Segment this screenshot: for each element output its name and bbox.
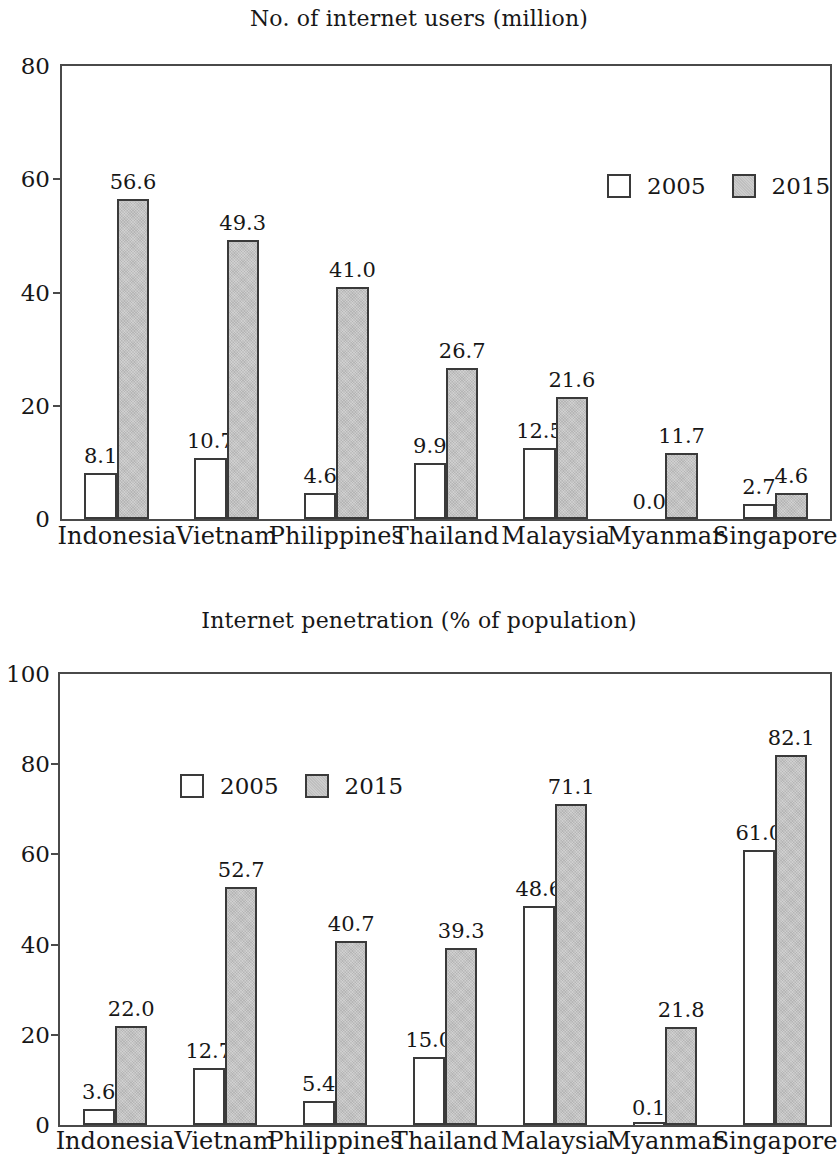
bar-vietnam-2015 xyxy=(225,887,257,1125)
x-axis-label-thailand: Thailand xyxy=(393,524,499,548)
bar-myanmar-2015 xyxy=(665,453,697,519)
bar-value-label: 52.7 xyxy=(218,860,265,881)
plot-frame: 3.622.012.752.75.440.715.039.348.671.10.… xyxy=(58,672,832,1127)
legend-swatch-2005-icon xyxy=(180,774,204,798)
y-axis: 020406080 xyxy=(0,0,60,580)
bar-singapore-2015 xyxy=(775,493,807,519)
bar-vietnam-2015 xyxy=(227,240,259,519)
chart-title: No. of internet users (million) xyxy=(0,6,838,31)
y-axis-tick-label: 20 xyxy=(21,394,50,417)
y-axis-tick-mark xyxy=(53,292,62,294)
y-axis-tick-label: 40 xyxy=(21,933,50,956)
bar-thailand-2005 xyxy=(414,463,446,519)
x-axis-label-myanmar: Myanmar xyxy=(607,524,723,548)
y-axis-tick-label: 60 xyxy=(21,843,50,866)
legend-entry-2005: 2005 xyxy=(607,174,706,198)
bar-indonesia-2015 xyxy=(117,199,149,519)
x-axis-label-malaysia: Malaysia xyxy=(501,1129,610,1153)
x-axis-labels: IndonesiaVietnamPhilippinesThailandMalay… xyxy=(0,1129,838,1163)
bar-value-label: 22.0 xyxy=(108,999,155,1020)
x-axis-label-indonesia: Indonesia xyxy=(57,524,176,548)
y-axis-tick-mark xyxy=(51,1034,60,1036)
bar-myanmar-2015 xyxy=(665,1027,697,1125)
legend-swatch-2015-icon xyxy=(305,774,329,798)
y-axis-tick-label: 80 xyxy=(21,753,50,776)
x-axis-label-philippines: Philippines xyxy=(267,1129,402,1153)
bar-thailand-2015 xyxy=(445,948,477,1125)
y-axis-tick-label: 20 xyxy=(21,1023,50,1046)
bar-value-label: 82.1 xyxy=(768,728,815,749)
chart-internet-penetration: Internet penetration (% of population) 3… xyxy=(0,600,838,1165)
y-axis-tick-mark xyxy=(51,944,60,946)
legend-entry-2015: 2015 xyxy=(305,774,404,798)
bar-value-label: 21.6 xyxy=(549,370,596,391)
legend-label-2015: 2015 xyxy=(772,175,831,198)
bar-value-label: 40.7 xyxy=(328,914,375,935)
y-axis-tick-label: 40 xyxy=(21,281,50,304)
x-axis-label-singapore: Singapore xyxy=(713,1129,838,1153)
plot-area: 8.156.610.749.34.641.09.926.712.521.60.0… xyxy=(62,66,830,519)
y-axis-tick-label: 100 xyxy=(6,663,50,686)
legend-entry-2005: 2005 xyxy=(180,774,279,798)
x-axis-label-malaysia: Malaysia xyxy=(501,524,610,548)
bar-singapore-2015 xyxy=(775,755,807,1125)
y-axis: 020406080100 xyxy=(0,600,60,1165)
x-axis-label-myanmar: Myanmar xyxy=(607,1129,723,1153)
bar-indonesia-2005 xyxy=(84,473,116,519)
bar-value-label: 9.9 xyxy=(413,436,446,457)
bar-malaysia-2015 xyxy=(555,804,587,1125)
plot-frame: 8.156.610.749.34.641.09.926.712.521.60.0… xyxy=(60,64,832,521)
chart-title: Internet penetration (% of population) xyxy=(0,608,838,633)
y-axis-tick-mark xyxy=(51,853,60,855)
y-axis-tick-mark xyxy=(53,405,62,407)
bar-myanmar-2005 xyxy=(633,1122,665,1125)
bar-philippines-2005 xyxy=(304,493,336,519)
bar-value-label: 3.6 xyxy=(82,1082,115,1103)
bar-malaysia-2005 xyxy=(523,448,555,519)
x-axis-label-vietnam: Vietnam xyxy=(175,1129,276,1153)
x-axis-label-indonesia: Indonesia xyxy=(56,1129,175,1153)
bar-indonesia-2005 xyxy=(83,1109,115,1125)
y-axis-tick-label: 60 xyxy=(21,168,50,191)
bar-philippines-2015 xyxy=(336,287,368,519)
bar-value-label: 11.7 xyxy=(658,426,705,447)
legend-label-2015: 2015 xyxy=(345,775,404,798)
bar-vietnam-2005 xyxy=(193,1068,225,1125)
y-axis-tick-label: 80 xyxy=(21,55,50,78)
x-axis-label-philippines: Philippines xyxy=(269,524,404,548)
bar-value-label: 71.1 xyxy=(548,777,595,798)
bar-value-label: 21.8 xyxy=(658,1000,705,1021)
legend-swatch-2015-icon xyxy=(732,174,756,198)
bar-value-label: 2.7 xyxy=(742,477,775,498)
bar-value-label: 39.3 xyxy=(438,921,485,942)
bar-value-label: 26.7 xyxy=(439,341,486,362)
bar-value-label: 49.3 xyxy=(219,213,266,234)
bar-value-label: 41.0 xyxy=(329,260,376,281)
chart-internet-users: No. of internet users (million) 8.156.61… xyxy=(0,0,838,580)
bar-value-label: 4.6 xyxy=(775,466,808,487)
x-axis-label-vietnam: Vietnam xyxy=(176,524,277,548)
bar-thailand-2015 xyxy=(446,368,478,519)
legend-label-2005: 2005 xyxy=(647,175,706,198)
bar-singapore-2005 xyxy=(743,504,775,519)
plot-area: 3.622.012.752.75.440.715.039.348.671.10.… xyxy=(60,674,830,1125)
legend-swatch-2005-icon xyxy=(607,174,631,198)
bar-philippines-2005 xyxy=(303,1101,335,1125)
bar-thailand-2005 xyxy=(413,1057,445,1125)
bar-value-label: 5.4 xyxy=(302,1074,335,1095)
bar-indonesia-2015 xyxy=(115,1026,147,1125)
bar-value-label: 0.1 xyxy=(632,1098,665,1119)
x-axis-label-singapore: Singapore xyxy=(713,524,838,548)
bar-singapore-2005 xyxy=(743,850,775,1125)
bar-value-label: 56.6 xyxy=(110,172,157,193)
y-axis-tick-mark xyxy=(51,763,60,765)
x-axis-labels: IndonesiaVietnamPhilippinesThailandMalay… xyxy=(0,524,838,558)
bar-philippines-2015 xyxy=(335,941,367,1125)
bar-vietnam-2005 xyxy=(194,458,226,519)
bar-value-label: 0.0 xyxy=(633,492,666,513)
legend-label-2005: 2005 xyxy=(220,775,279,798)
bar-value-label: 8.1 xyxy=(84,446,117,467)
chart-legend: 2005 2015 xyxy=(180,774,403,798)
chart-legend: 2005 2015 xyxy=(607,174,830,198)
legend-entry-2015: 2015 xyxy=(732,174,831,198)
